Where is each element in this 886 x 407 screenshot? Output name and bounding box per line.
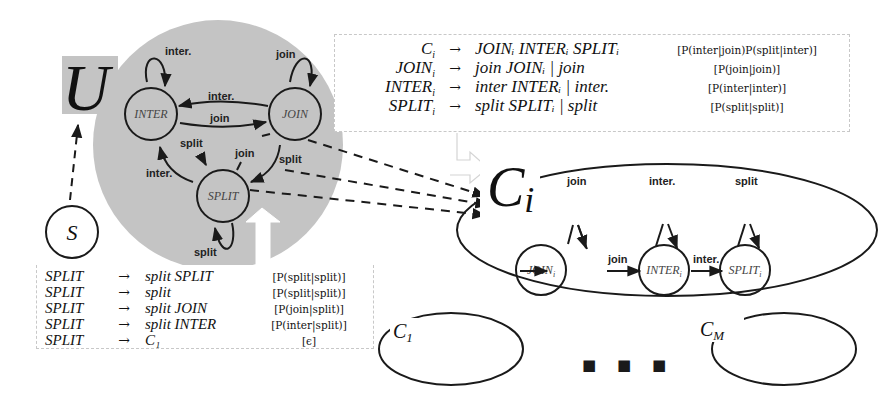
- svg-text:split: split: [194, 246, 217, 258]
- svg-text:split: split: [735, 175, 758, 187]
- split-rule-row: SPLIT → C₁ [ϵ]: [37, 332, 373, 348]
- cluster-rule-row: Ci → JOINᵢ INTERᵢ SPLITᵢ [P(inter|join)P…: [335, 39, 849, 58]
- svg-text:split: split: [180, 137, 203, 149]
- svg-text:inter.: inter.: [146, 167, 172, 179]
- cluster-rules-box: Ci → JOINᵢ INTERᵢ SPLITᵢ [P(inter|join)P…: [334, 34, 850, 132]
- svg-text:S: S: [67, 220, 78, 245]
- split-rule-row: SPLIT → split JOIN [P(join|split)]: [37, 300, 373, 316]
- svg-text:INTER: INTER: [133, 107, 168, 121]
- svg-text:inter.: inter.: [165, 45, 191, 57]
- svg-text:join: join: [566, 175, 587, 187]
- cluster-rule-row: SPLITi → split SPLITᵢ | split [P(split|s…: [335, 96, 849, 115]
- svg-text:join: join: [275, 48, 296, 60]
- svg-text:inter.: inter.: [649, 175, 675, 187]
- split-rule-row: SPLIT → split INTER [P(inter|split)]: [37, 316, 373, 332]
- svg-text:INTERi: INTERi: [645, 263, 682, 279]
- cluster-c1: C1: [379, 313, 523, 385]
- cluster-state-inter: INTERi: [639, 245, 689, 295]
- svg-text:join: join: [607, 253, 628, 265]
- cluster-state-split: SPLITi: [720, 245, 770, 295]
- svg-text:inter.: inter.: [208, 90, 234, 102]
- svg-text:SPLITi: SPLITi: [729, 263, 762, 279]
- start-state-s: S: [46, 206, 98, 258]
- svg-text:split: split: [279, 153, 302, 165]
- ellipsis-dots: ■ ■ ■: [582, 356, 674, 374]
- split-rule-row: SPLIT → split [P(split|split)]: [37, 284, 373, 300]
- edge-s-to-u: [70, 125, 78, 200]
- cluster-rule-row: INTERi → inter INTERᵢ | inter. [P(inter|…: [335, 77, 849, 96]
- cluster-rule-row: JOINi → join JOINᵢ | join [P(join|join)]: [335, 58, 849, 77]
- universe-label: U: [62, 51, 114, 124]
- svg-text:join: join: [209, 112, 230, 124]
- svg-text:SPLIT: SPLIT: [208, 189, 240, 203]
- cluster-cm: CM: [700, 313, 856, 385]
- svg-text:join: join: [234, 147, 255, 159]
- split-rules-box: SPLIT → split SPLIT [P(split|split)] SPL…: [36, 265, 374, 349]
- split-rule-row: SPLIT → split SPLIT [P(split|split)]: [37, 268, 373, 284]
- svg-text:JOIN: JOIN: [282, 107, 309, 121]
- svg-text:inter.: inter.: [693, 253, 719, 265]
- universe-region: [93, 20, 343, 270]
